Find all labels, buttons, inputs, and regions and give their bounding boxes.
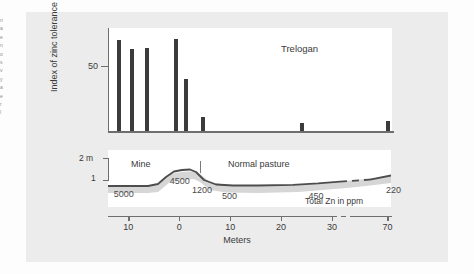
y-axis-tick-label-50: 50 [80, 61, 98, 71]
margin-fragment: y [0, 75, 9, 83]
x-axis-tick [230, 216, 231, 221]
y-axis-title: Index of zinc tolerance [49, 0, 59, 107]
margin-fragment: n [0, 41, 9, 49]
bar [145, 48, 149, 132]
x-axis-tick-label: 0 [167, 222, 191, 232]
x-axis-break-dashes [332, 216, 352, 217]
margin-fragment: a [0, 83, 9, 91]
zinc-value-label: 500 [222, 191, 237, 201]
x-axis-tick-label: 20 [269, 222, 293, 232]
zinc-value-label: 450 [309, 191, 324, 201]
zinc-value-label: 5000 [114, 189, 134, 199]
x-axis-tick [128, 216, 129, 221]
bar [174, 39, 178, 132]
margin-fragment: o [0, 50, 9, 58]
profile-tick-2m [103, 158, 108, 159]
x-axis-tick [179, 216, 180, 221]
x-axis-line-left [108, 216, 332, 217]
zinc-value-label: 4500 [170, 176, 190, 186]
profile-label-2m: 2 m [79, 153, 93, 163]
margin-fragment: e [0, 33, 9, 41]
site-label-trelogan: Trelogan [281, 43, 318, 54]
x-axis-title: Meters [0, 235, 474, 245]
zinc-value-label: 1200 [192, 185, 212, 195]
x-axis-tick [332, 216, 333, 221]
profile-y-axis [108, 158, 109, 181]
page-margin-text: n a e n o s v y a e r l [0, 16, 9, 166]
zinc-value-label: 220 [386, 185, 401, 195]
zone-label-pasture: Normal pasture [228, 159, 290, 169]
x-axis-tick-label: 10 [116, 222, 140, 232]
margin-fragment: a [0, 24, 9, 32]
margin-fragment: r [0, 100, 9, 108]
bar [130, 49, 134, 132]
profile-tick-1 [103, 180, 108, 181]
bar [117, 40, 121, 132]
mine-pasture-divider [200, 161, 201, 173]
bar [201, 117, 205, 132]
margin-fragment: l [0, 108, 9, 116]
margin-fragment: v [0, 66, 9, 74]
x-axis-tick-label: 10 [218, 222, 242, 232]
bar [184, 79, 188, 132]
margin-fragment: s [0, 58, 9, 66]
margin-fragment: n [0, 16, 9, 24]
bar-chart-baseline [108, 131, 394, 133]
profile-label-1: 1 [91, 173, 96, 183]
x-axis-tick [387, 216, 388, 221]
margin-fragment: e [0, 92, 9, 100]
x-axis-tick-label: 70 [375, 222, 399, 232]
zinc-tolerance-bar-panel [108, 28, 392, 132]
x-axis-line-right [352, 216, 392, 217]
zone-label-mine: Mine [131, 159, 151, 169]
y-axis-tick-50 [101, 66, 108, 67]
x-axis-tick [281, 216, 282, 221]
x-axis-tick-label: 30 [320, 222, 344, 232]
